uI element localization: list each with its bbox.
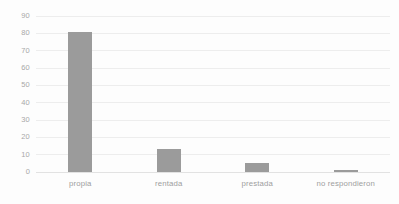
plot-area bbox=[36, 16, 390, 172]
y-tick-label-70: 70 bbox=[4, 47, 30, 55]
y-tick-label-80: 80 bbox=[4, 29, 30, 37]
y-tick-label-30: 30 bbox=[4, 116, 30, 124]
bar-rentada[interactable] bbox=[157, 149, 181, 172]
y-tick-label-0: 0 bbox=[4, 168, 30, 176]
y-tick-label-60: 60 bbox=[4, 64, 30, 72]
x-tick-label-rentada: rentada bbox=[155, 180, 183, 188]
bar-no-respondieron[interactable] bbox=[334, 170, 358, 172]
bar-prestada[interactable] bbox=[245, 163, 269, 172]
y-tick-label-50: 50 bbox=[4, 81, 30, 89]
y-tick-label-10: 10 bbox=[4, 151, 30, 159]
bars-layer bbox=[36, 16, 390, 172]
x-axis-tick-labels: propiarentadaprestadano respondieron bbox=[36, 180, 390, 194]
bar-propia[interactable] bbox=[68, 32, 92, 172]
x-tick-label-propia: propia bbox=[69, 180, 92, 188]
y-tick-label-90: 90 bbox=[4, 12, 30, 20]
bar-chart-figure: 0102030405060708090 propiarentadaprestad… bbox=[0, 0, 399, 204]
x-tick-label-prestada: prestada bbox=[241, 180, 273, 188]
y-tick-label-20: 20 bbox=[4, 133, 30, 141]
x-tick-label-no-respondieron: no respondieron bbox=[316, 180, 375, 188]
y-tick-label-40: 40 bbox=[4, 99, 30, 107]
